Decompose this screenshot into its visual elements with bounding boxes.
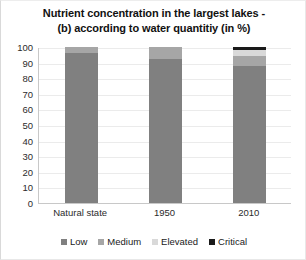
legend-label: Elevated (161, 236, 198, 247)
y-axis-tick-label: 0 (1, 199, 33, 209)
bar-stack (149, 47, 182, 203)
y-axis-tick-label: 20 (1, 168, 33, 178)
bar-segment[interactable] (233, 56, 266, 65)
y-axis-tick-label: 80 (1, 74, 33, 84)
bar-stack (233, 47, 266, 203)
legend-item[interactable]: Elevated (152, 236, 198, 247)
legend-swatch-icon (98, 239, 104, 245)
y-axis-tick-label: 10 (1, 183, 33, 193)
legend-label: Low (70, 236, 87, 247)
y-axis-tick-label: 90 (1, 59, 33, 69)
bar-stack (65, 47, 98, 203)
chart-card: Nutrient concentration in the largest la… (0, 0, 306, 260)
y-axis-tick-label: 70 (1, 90, 33, 100)
bar-segment[interactable] (65, 53, 98, 203)
legend-swatch-icon (61, 239, 67, 245)
legend-label: Medium (107, 236, 141, 247)
bar-column[interactable] (65, 47, 98, 203)
legend-label: Critical (218, 236, 247, 247)
x-axis-tick-label: 2010 (207, 207, 291, 219)
legend-item[interactable]: Low (61, 236, 87, 247)
bar-segment[interactable] (149, 47, 182, 59)
chart-title-line-2: (b) according to water quantitiy (in %) (9, 21, 299, 36)
x-axis-tick-label: Natural state (38, 207, 122, 219)
y-axis-tick-label: 60 (1, 105, 33, 115)
y-axis-tick-label: 30 (1, 152, 33, 162)
y-axis-tick-label: 50 (1, 121, 33, 131)
chart-legend: LowMediumElevatedCritical (1, 236, 306, 247)
x-axis: Natural state19502010 (38, 207, 291, 223)
bar-segment[interactable] (149, 59, 182, 203)
bar-column[interactable] (149, 47, 182, 203)
legend-swatch-icon (209, 239, 215, 245)
bar-segment[interactable] (233, 66, 266, 203)
y-axis: 1009080706050403020100 (1, 48, 33, 204)
y-axis-tick-label: 40 (1, 137, 33, 147)
bar-column[interactable] (233, 47, 266, 203)
legend-swatch-icon (152, 239, 158, 245)
chart-title: Nutrient concentration in the largest la… (9, 6, 299, 36)
legend-item[interactable]: Critical (209, 236, 247, 247)
legend-item[interactable]: Medium (98, 236, 141, 247)
chart-title-line-1: Nutrient concentration in the largest la… (9, 6, 299, 21)
x-axis-tick-label: 1950 (122, 207, 206, 219)
plot-area (38, 48, 291, 204)
y-axis-tick-label: 100 (1, 43, 33, 53)
